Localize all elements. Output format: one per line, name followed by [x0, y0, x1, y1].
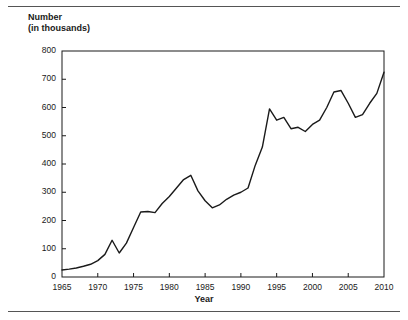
y-tick-label: 400	[22, 159, 56, 168]
x-tick-label: 1975	[114, 283, 154, 292]
data-series-line	[62, 72, 384, 270]
y-tick-label: 200	[22, 216, 56, 225]
y-tick-label: 600	[22, 103, 56, 112]
x-axis-title: Year	[0, 294, 408, 304]
y-axis-ticks	[62, 79, 66, 249]
y-tick-label: 300	[22, 187, 56, 196]
x-tick-label: 1985	[185, 283, 225, 292]
plot-area: 0100200300400500600700800 19651970197519…	[0, 0, 408, 320]
y-tick-label: 0	[22, 272, 56, 281]
x-axis-ticks	[98, 273, 348, 277]
x-tick-label: 1995	[257, 283, 297, 292]
y-tick-label: 100	[22, 244, 56, 253]
x-tick-label: 1965	[42, 283, 82, 292]
y-tick-label: 700	[22, 74, 56, 83]
chart-canvas	[0, 0, 408, 320]
x-tick-label: 2000	[292, 283, 332, 292]
x-tick-label: 2010	[364, 283, 404, 292]
x-tick-label: 2005	[328, 283, 368, 292]
chart-figure: Number(in thousands) 0100200300400500600…	[0, 0, 408, 320]
y-tick-label: 800	[22, 46, 56, 55]
y-tick-label: 500	[22, 131, 56, 140]
x-tick-label: 1970	[78, 283, 118, 292]
x-tick-label: 1980	[149, 283, 189, 292]
x-tick-label: 1990	[221, 283, 261, 292]
